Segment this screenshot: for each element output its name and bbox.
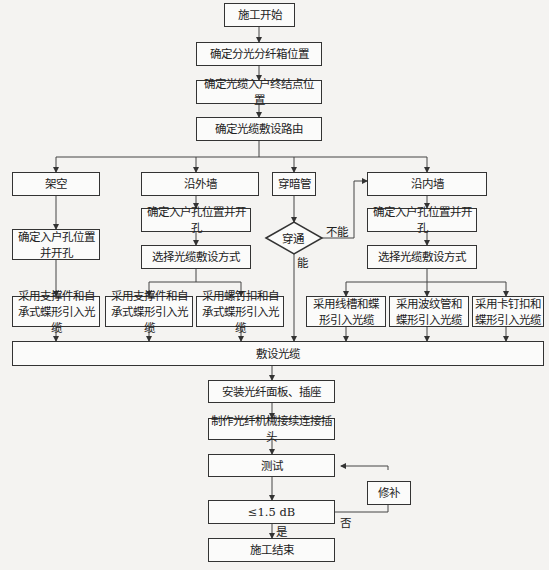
method-support-aerial: 采用支撑件和自承式蝶形引入光缆 [12,296,100,327]
label-cannot: 不能 [326,223,348,239]
method-trunking: 采用线槽和蝶形引入光缆 [306,296,386,327]
inner-select-method: 选择光缆敷设方式 [367,245,477,269]
method-corrugated: 采用波纹管和蝶形引入光缆 [389,296,469,327]
aerial-drill-hole: 确定入户孔位置并开孔 [12,229,100,260]
outer-drill-hole: 确定入户孔位置并开孔 [141,208,251,232]
method-screw-outer: 采用螺钉扣和自承式蝶形引入光缆 [196,296,284,327]
lay-cable: 敷设光缆 [12,341,544,366]
step-fiber-box-location: 确定分光分纤箱位置 [196,42,322,66]
end-node: 施工结束 [208,538,335,562]
label-can: 能 [297,254,308,270]
branch-aerial: 架空 [12,172,100,196]
test: 测试 [208,454,335,477]
start-node: 施工开始 [224,3,295,27]
repair: 修补 [367,481,411,505]
check-loss: ≤1.5 dB [208,500,335,524]
make-connector: 制作光纤机械接续连接插头 [208,418,335,440]
label-no: 否 [340,514,351,530]
install-panel: 安装光纤面板、插座 [208,380,335,403]
method-support-outer: 采用支撑件和自承式蝶形引入光缆 [105,296,193,327]
decision-pass-through: 穿通 [282,230,304,246]
inner-drill-hole: 确定入户孔位置并开孔 [367,208,477,232]
step-termination-point: 确定光缆入户终结点位置 [196,80,322,104]
branch-outer-wall: 沿外墙 [141,172,259,196]
branch-inner-wall: 沿内墙 [367,172,487,196]
label-yes: 是 [276,523,287,539]
outer-select-method: 选择光缆敷设方式 [141,245,251,269]
branch-conduit: 穿暗管 [272,172,316,196]
step-routing: 确定光缆敷设路由 [196,117,322,141]
method-clip: 采用卡钉扣和蝶形引入光缆 [472,296,544,327]
